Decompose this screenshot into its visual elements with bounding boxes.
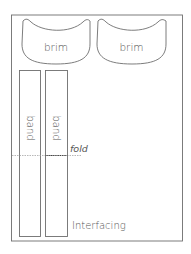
fold-label: fold — [70, 143, 89, 154]
pattern-layout-diagram: brim brim band band fold Interfacing — [0, 0, 191, 254]
band-piece-2 — [46, 71, 68, 237]
brim-label-2: brim — [119, 41, 143, 53]
brim-label-1: brim — [44, 41, 68, 53]
band-label-1: band — [25, 115, 36, 140]
interfacing-fabric-outline — [12, 15, 183, 241]
interfacing-label: Interfacing — [72, 220, 126, 231]
band-piece-1 — [20, 71, 41, 237]
band-label-2: band — [51, 115, 62, 140]
